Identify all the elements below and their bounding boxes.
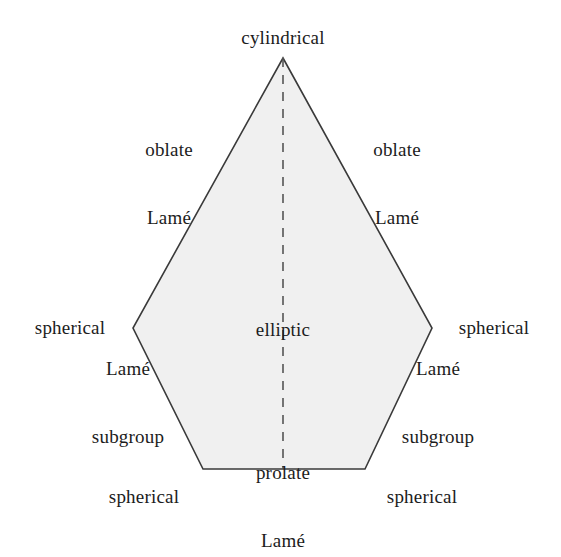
label-oblate-lame-right-line2: Lamé (373, 207, 421, 230)
label-prolate-lame-line1: prolate (256, 461, 310, 484)
label-lame-subgroup-right: Lamé subgroup (402, 312, 474, 494)
label-cylindrical: cylindrical (241, 26, 324, 49)
label-spherical-bottom-right: spherical (387, 485, 457, 508)
label-oblate-lame-left-line2: Lamé (145, 207, 193, 230)
label-prolate-lame: prolate Lamé (256, 416, 310, 557)
label-oblate-lame-right: oblate Lamé (373, 93, 421, 275)
label-prolate-lame-line2: Lamé (256, 530, 310, 553)
label-lame-subgroup-right-line1: Lamé (402, 357, 474, 380)
label-oblate-lame-left: oblate Lamé (145, 93, 193, 275)
label-oblate-lame-left-line1: oblate (145, 138, 193, 161)
label-lame-subgroup-left-line2: subgroup (92, 426, 164, 449)
diagram-figure: cylindrical oblate Lamé oblate Lamé sphe… (0, 0, 561, 557)
label-spherical-bottom-left: spherical (109, 485, 179, 508)
label-elliptic: elliptic (256, 318, 310, 341)
label-lame-subgroup-left: Lamé subgroup (92, 312, 164, 494)
label-lame-subgroup-left-line1: Lamé (92, 357, 164, 380)
label-lame-subgroup-right-line2: subgroup (402, 426, 474, 449)
label-oblate-lame-right-line1: oblate (373, 138, 421, 161)
